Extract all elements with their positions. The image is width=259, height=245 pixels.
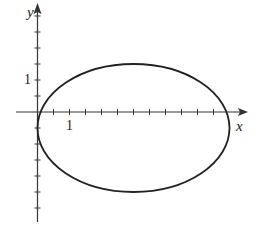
x-tick-label-1: 1	[66, 118, 73, 133]
y-tick-label-1: 1	[24, 72, 31, 87]
x-axis-label: x	[235, 118, 243, 134]
ellipse-plot: y x 1 1	[0, 0, 259, 245]
y-axis-label: y	[25, 4, 34, 20]
